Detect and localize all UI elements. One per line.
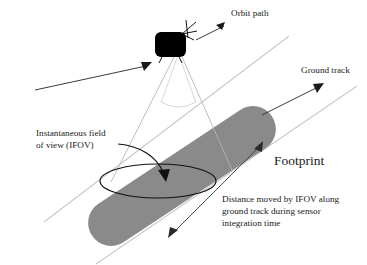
ifov-label-line1: Instantaneous field [36,128,106,138]
ground-track-rail-lower [96,86,357,264]
ground-track-arrow-icon [262,83,324,115]
orbit-path-arrow-icon [196,22,225,40]
inner-cone-left-edge [161,58,177,103]
inner-cone-arc [161,102,196,107]
footprint-arrowhead-lower [168,227,178,238]
orbit-path-label: Orbit path [231,8,269,18]
ground-track-arrowhead [313,83,324,93]
satellite-ifov-diagram: Orbit path Ground track Footprint Instan… [0,0,367,265]
footprint-shape-group [79,97,285,255]
satellite-leg-left [159,57,162,63]
diagram-canvas: Orbit path Ground track Footprint Instan… [0,0,367,265]
footprint-capsule [79,97,285,255]
distance-label-line1: Distance moved by IFOV along [222,194,340,204]
approach-arrowhead [141,62,152,71]
distance-label-line2: ground track during sensor [222,206,321,216]
satellite-body [155,32,186,57]
distance-label-line3: integration time [222,218,280,228]
ground-track-label: Ground track [301,65,350,75]
approach-arrow-icon [35,62,152,90]
satellite-icon [155,20,197,63]
satellite-leg-right [179,57,182,63]
ifov-label-line2: of view (IFOV) [36,140,94,150]
inner-cone-right-edge [180,58,196,103]
footprint-label: Footprint [274,153,325,168]
